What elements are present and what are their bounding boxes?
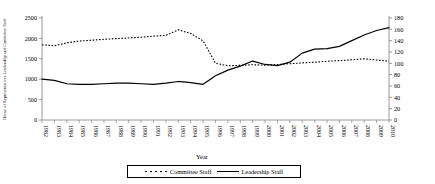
x-tick-1993: 1993 <box>180 125 186 137</box>
y-tick-right-60: 60 <box>394 82 400 89</box>
y-tick-right-160: 160 <box>394 26 403 33</box>
solid-line-swatch-icon <box>217 171 239 172</box>
x-tick-1995: 1995 <box>204 125 210 137</box>
series-line-leadership-staff <box>42 28 389 85</box>
x-tick-1999: 1999 <box>254 125 260 137</box>
y-axis-tick-labels: 0500100015002000250002040608010012014016… <box>25 14 404 123</box>
x-tick-1988: 1988 <box>118 125 124 137</box>
y-tick-right-20: 20 <box>394 105 400 112</box>
y-tick-left-500: 500 <box>28 96 37 103</box>
chart-container: House of Representatives Leadership and … <box>0 0 435 184</box>
x-axis-tick-labels: 1982198319841985198619871988198919901991… <box>43 125 396 137</box>
x-tick-1984: 1984 <box>68 125 74 137</box>
x-tick-2008: 2008 <box>365 125 371 137</box>
x-tick-1985: 1985 <box>80 125 86 137</box>
y-tick-right-180: 180 <box>394 14 403 21</box>
x-tick-1990: 1990 <box>142 125 148 137</box>
x-tick-2003: 2003 <box>303 125 309 137</box>
x-tick-2004: 2004 <box>316 125 322 137</box>
y-tick-right-0: 0 <box>394 116 397 123</box>
x-tick-1998: 1998 <box>241 125 247 137</box>
legend-label-committee-staff: Committee Staff <box>170 168 212 175</box>
x-tick-1992: 1992 <box>167 125 173 137</box>
x-tick-1982: 1982 <box>43 125 49 137</box>
y-tick-left-1000: 1000 <box>25 75 37 82</box>
x-tick-2001: 2001 <box>279 125 285 137</box>
x-tick-2009: 2009 <box>378 125 384 137</box>
x-tick-1986: 1986 <box>93 125 99 137</box>
y-tick-left-2000: 2000 <box>25 35 37 42</box>
x-tick-2010: 2010 <box>390 125 396 137</box>
x-tick-2000: 2000 <box>266 125 272 137</box>
x-tick-1997: 1997 <box>229 125 235 137</box>
chart-legend: Committee Staff Leadership Staff <box>127 165 301 178</box>
x-tick-1983: 1983 <box>56 125 62 137</box>
y-tick-left-0: 0 <box>34 116 37 123</box>
legend-item-committee-staff: Committee Staff <box>145 168 212 175</box>
series-line-committee-staff <box>42 30 389 66</box>
axes <box>39 16 392 123</box>
dotted-line-swatch-icon <box>145 171 167 172</box>
y-tick-right-140: 140 <box>394 37 403 44</box>
y-tick-right-120: 120 <box>394 48 403 55</box>
x-tick-2005: 2005 <box>328 125 334 137</box>
x-tick-1987: 1987 <box>105 125 111 137</box>
y-tick-right-80: 80 <box>394 71 400 78</box>
x-tick-2006: 2006 <box>341 125 347 137</box>
legend-item-leadership-staff: Leadership Staff <box>217 168 284 175</box>
x-tick-1996: 1996 <box>217 125 223 137</box>
x-axis-title: Year <box>196 153 209 160</box>
x-tick-2002: 2002 <box>291 125 297 137</box>
x-tick-1994: 1994 <box>192 125 198 137</box>
chart-plot: 1982198319841985198619871988198919901991… <box>0 0 435 184</box>
legend-label-leadership-staff: Leadership Staff <box>242 168 284 175</box>
x-tick-1991: 1991 <box>155 125 161 137</box>
y-tick-right-40: 40 <box>394 94 400 101</box>
y-tick-right-100: 100 <box>394 60 403 67</box>
data-series <box>42 28 389 85</box>
x-tick-1989: 1989 <box>130 125 136 137</box>
y-tick-left-1500: 1500 <box>25 55 37 62</box>
x-tick-2007: 2007 <box>353 125 359 137</box>
y-tick-left-2500: 2500 <box>25 14 37 21</box>
